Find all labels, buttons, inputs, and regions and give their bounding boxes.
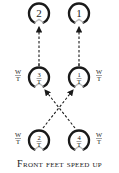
side-label-num: W: [15, 68, 22, 75]
fraction-denominator: T: [77, 78, 81, 85]
side-label-den: T: [16, 75, 20, 82]
foot-node-bottom-right: 4 T W T: [69, 131, 103, 150]
fraction-denominator: T: [37, 78, 41, 85]
side-label-num: W: [96, 131, 103, 138]
side-label-num: W: [15, 131, 22, 138]
node-label: 1: [76, 7, 82, 19]
arrow-bottom-left-to-middle-right: [43, 90, 73, 128]
arrow-bottom-right-to-middle-left: [45, 90, 75, 128]
side-label-den: T: [97, 75, 101, 82]
side-label-num: W: [96, 68, 103, 75]
fraction-numerator: 4: [77, 134, 81, 141]
foot-node-top-right: 1: [69, 4, 89, 23]
foot-node-bottom-left: 2 T W T: [15, 131, 49, 150]
foot-node-top-left: 2: [29, 4, 49, 23]
fraction-numerator: 1: [77, 71, 80, 78]
foot-node-middle-right: 1 T W T: [69, 63, 103, 87]
node-label: 2: [36, 7, 42, 19]
arrows: [39, 27, 79, 128]
fraction-numerator: 2: [37, 134, 40, 141]
foot-node-middle-left: 3 T W T: [15, 63, 49, 87]
fraction-denominator: T: [37, 141, 41, 148]
fraction-numerator: 3: [37, 71, 40, 78]
diagram-caption: Front feet speed up: [0, 158, 119, 169]
side-label-den: T: [16, 138, 20, 145]
gait-diagram: 2 1 3 T W T 1 T W T 2 T W T: [0, 0, 119, 173]
side-label-den: T: [97, 138, 101, 145]
fraction-denominator: T: [77, 141, 81, 148]
